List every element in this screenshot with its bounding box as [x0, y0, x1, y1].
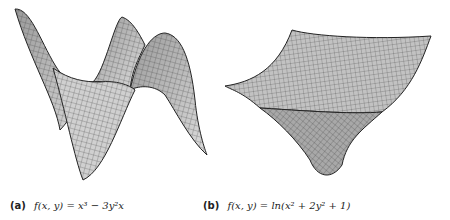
caption-formula-a: f(x, y) = x³ − 3y²x [34, 200, 124, 211]
caption-a: (a) f(x, y) = x³ − 3y²x [10, 200, 124, 211]
monkey-saddle-surface [0, 0, 220, 195]
surface-plot-a [0, 0, 220, 195]
log-bowl-surface [222, 0, 450, 195]
caption-b: (b) f(x, y) = ln(x² + 2y² + 1) [203, 200, 350, 211]
caption-label-b: (b) [203, 200, 219, 211]
surface-plot-b [222, 0, 450, 195]
caption-label-a: (a) [10, 200, 26, 211]
caption-formula-b: f(x, y) = ln(x² + 2y² + 1) [228, 200, 351, 211]
